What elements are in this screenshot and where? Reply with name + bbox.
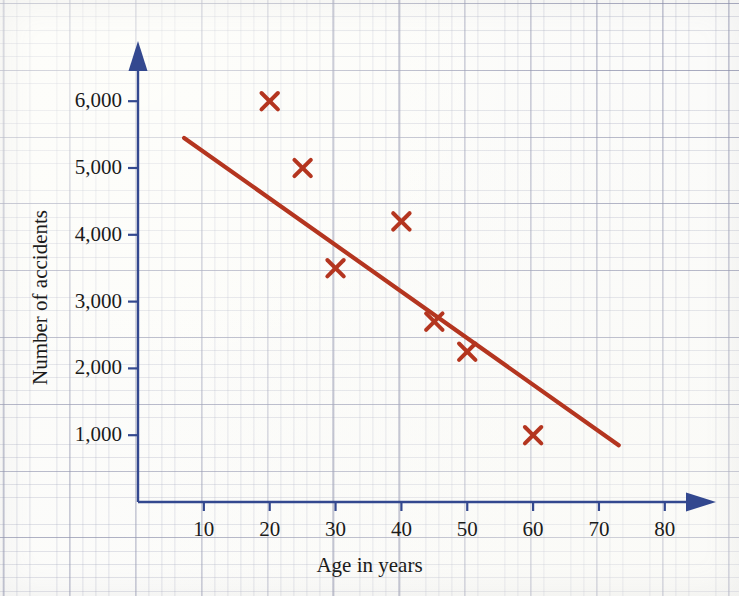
y-axis-label-1000: 1,000 xyxy=(30,424,122,445)
x-axis-label-30: 30 xyxy=(306,519,366,540)
data-point xyxy=(459,344,475,360)
x-axis-arrowhead xyxy=(686,493,716,512)
x-axis-label-10: 10 xyxy=(174,519,234,540)
x-axis-label-40: 40 xyxy=(371,519,431,540)
x-axis-label-70: 70 xyxy=(569,519,629,540)
x-axis-label-20: 20 xyxy=(240,519,300,540)
x-axis-label-50: 50 xyxy=(437,519,497,540)
chart-figure: Age in years Number of accidents 1,0002,… xyxy=(0,0,739,596)
data-point xyxy=(525,427,541,443)
y-axis-label-2000: 2,000 xyxy=(30,357,122,378)
data-point xyxy=(294,160,310,176)
data-point xyxy=(327,260,343,276)
y-axis-label-6000: 6,000 xyxy=(30,90,122,111)
data-point xyxy=(262,93,278,109)
y-axis-arrowhead xyxy=(129,41,148,71)
x-axis-label-80: 80 xyxy=(635,519,695,540)
y-axis-label-5000: 5,000 xyxy=(30,157,122,178)
data-point xyxy=(393,213,409,229)
y-axis-label-3000: 3,000 xyxy=(30,291,122,312)
line-of-best-fit xyxy=(184,138,619,445)
x-axis-label-60: 60 xyxy=(503,519,563,540)
y-axis-label-4000: 4,000 xyxy=(30,224,122,245)
x-axis-title: Age in years xyxy=(0,553,739,578)
